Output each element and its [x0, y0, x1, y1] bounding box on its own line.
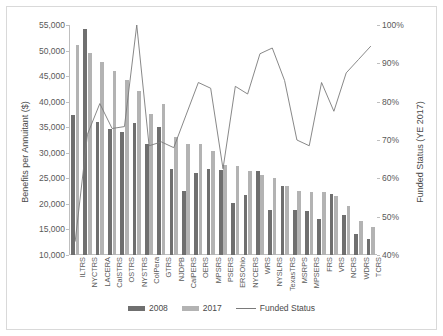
y2-tick-mark: [377, 255, 380, 256]
x-axis-label: NJDPB: [177, 257, 186, 281]
legend-item-2008: 2008: [128, 303, 168, 313]
x-axis-label: VRS: [337, 257, 346, 272]
x-axis-label: LACERA: [103, 257, 112, 287]
y-axis-title-right: Funded Status (YE 2017): [415, 72, 425, 232]
chart-screenshot: Benefits per Annuitant ($) Funded Status…: [0, 0, 443, 336]
y2-tick-label: 100%: [382, 20, 404, 30]
x-axis-label: GTRS: [164, 257, 173, 278]
funded-status-line: [75, 25, 371, 242]
y-tick-label: 10,000: [39, 250, 65, 260]
y-tick-label: 35,000: [39, 122, 65, 132]
x-axis-label: OSTRS: [127, 257, 136, 282]
y-tick-label: 25,000: [39, 173, 65, 183]
y2-tick-mark: [377, 102, 380, 103]
y2-tick-mark: [377, 140, 380, 141]
x-axis-label: NCRS: [349, 257, 358, 278]
x-axis-label: PSERS: [226, 257, 235, 282]
y2-tick-mark: [377, 63, 380, 64]
x-axis-label: ColPera: [152, 257, 161, 284]
legend-item-funded-status: Funded Status: [236, 303, 315, 313]
y-tick-mark: [66, 255, 69, 256]
chart-frame: Benefits per Annuitant ($) Funded Status…: [6, 6, 437, 330]
legend-swatch-2008: [128, 306, 145, 311]
legend-swatch-2017: [182, 306, 199, 311]
x-axis-label: ERSOhio: [238, 257, 247, 288]
x-axis-label: MPSERS: [312, 257, 321, 288]
x-axis-label: WDRS: [362, 257, 371, 280]
y2-tick-label: 50%: [382, 212, 399, 222]
x-axis-label: MSRPS: [300, 257, 309, 283]
chart-legend: 2008 2017 Funded Status: [7, 303, 436, 313]
y2-tick-mark: [377, 217, 380, 218]
y-tick-label: 55,000: [39, 20, 65, 30]
y2-tick-label: 80%: [382, 97, 399, 107]
x-axis-label: CalSTRS: [115, 257, 124, 288]
x-axis-label: NYCERS: [251, 257, 260, 288]
y2-tick-label: 90%: [382, 58, 399, 68]
x-axis-label: OERS: [201, 257, 210, 278]
plot-area: 10,00015,00020,00025,00030,00035,00040,0…: [69, 25, 377, 255]
legend-swatch-funded-status: [236, 308, 256, 309]
x-axis-label: CalPERS: [189, 257, 198, 288]
funded-status-line-layer: [69, 25, 377, 255]
x-axis-label: TCRS: [374, 257, 383, 277]
x-axis-label: WRS: [263, 257, 272, 274]
x-axis-label: MPSRS: [214, 257, 223, 283]
x-axis-label: TexasTRS: [288, 257, 297, 291]
legend-label-funded-status: Funded Status: [260, 303, 315, 313]
legend-item-2017: 2017: [182, 303, 222, 313]
y-tick-label: 45,000: [39, 71, 65, 81]
legend-label-2008: 2008: [149, 303, 168, 313]
x-axis-label: ILTRS: [78, 257, 87, 277]
y2-tick-label: 40%: [382, 250, 399, 260]
x-axis-label: NYCTRS: [90, 257, 99, 287]
y2-tick-label: 70%: [382, 135, 399, 145]
y-tick-label: 30,000: [39, 148, 65, 158]
y2-tick-label: 60%: [382, 173, 399, 183]
y-tick-label: 40,000: [39, 97, 65, 107]
x-axis-label: FRS: [325, 257, 334, 272]
y-tick-label: 15,000: [39, 224, 65, 234]
y-tick-label: 50,000: [39, 46, 65, 56]
x-axis-label: NYSLRS: [275, 257, 284, 287]
x-axis-label: NYSTRS: [140, 257, 149, 287]
legend-label-2017: 2017: [203, 303, 222, 313]
x-axis-labels: ILTRSNYCTRSLACERACalSTRSOSTRSNYSTRSColPe…: [69, 257, 377, 309]
y2-tick-mark: [377, 178, 380, 179]
y-axis-title-left: Benefits per Annuitant ($): [20, 72, 30, 232]
y-tick-label: 20,000: [39, 199, 65, 209]
y2-tick-mark: [377, 25, 380, 26]
